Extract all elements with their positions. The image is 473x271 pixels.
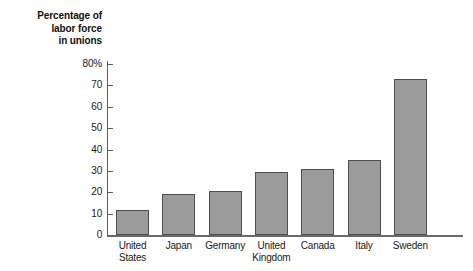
x-axis-category-label-line: States — [93, 252, 173, 264]
bar — [116, 210, 149, 235]
bar — [255, 172, 288, 235]
x-axis-category-label-line: Sweden — [370, 240, 450, 252]
bar — [209, 191, 242, 235]
bar — [394, 79, 427, 235]
x-axis-category-label: Sweden — [370, 240, 450, 252]
bars-layer — [0, 0, 473, 271]
bar — [301, 169, 334, 235]
bar — [348, 160, 381, 235]
x-axis-category-label-line: Kingdom — [231, 252, 311, 264]
bar — [162, 194, 195, 235]
bar-chart: Percentage of labor force in unions 0102… — [0, 0, 473, 271]
